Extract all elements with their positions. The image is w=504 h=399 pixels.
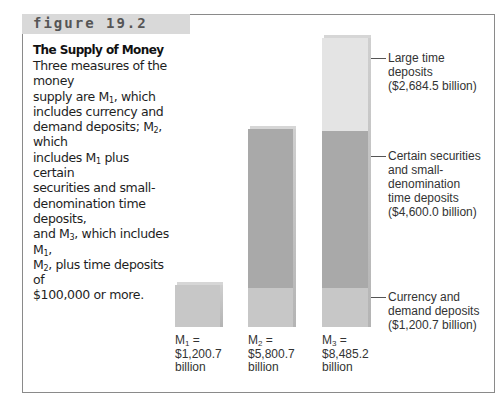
segment-currency-demand — [322, 288, 368, 327]
segment-securities-small-time — [322, 131, 368, 288]
leader-line-securities — [371, 156, 386, 157]
caption-line: includes M1 plus certain — [33, 150, 171, 181]
leader-line-large-time — [371, 58, 386, 59]
caption-line: Three measures of the money — [33, 58, 171, 89]
figure-caption: Three measures of the money supply are M… — [33, 58, 171, 303]
annotation-large-time: Large time deposits ($2,684.5 billion) — [388, 51, 477, 93]
caption-line: supply are M1, which — [33, 89, 171, 104]
figure-number: figure 19.2 — [33, 15, 148, 31]
annotation-currency: Currency and demand deposits ($1,200.7 b… — [388, 290, 479, 332]
segment-securities-small-time — [248, 129, 293, 288]
annotation-securities: Certain securities and small- denominati… — [388, 149, 481, 219]
leader-line-currency — [371, 297, 386, 298]
figure-title: The Supply of Money — [33, 43, 163, 57]
bar-m2 — [248, 129, 293, 327]
bar-m1 — [175, 285, 220, 327]
category-label-m1: M1 = $1,200.7 billion — [175, 334, 222, 375]
caption-line: securities and small- — [33, 180, 171, 195]
bar-m3 — [322, 38, 368, 327]
category-label-m2: M2 = $5,800.7 billion — [248, 334, 295, 375]
caption-line: $100,000 or more. — [33, 287, 171, 302]
category-label-m3: M3 = $8,485.2 billion — [322, 334, 369, 375]
caption-line: includes currency and — [33, 104, 171, 119]
caption-line: denomination time deposits, — [33, 196, 171, 227]
caption-line: demand deposits; M2, which — [33, 119, 171, 150]
segment-currency-demand — [248, 288, 293, 327]
segment-currency-demand — [175, 285, 220, 327]
caption-line: M2, plus time deposits of — [33, 257, 171, 288]
caption-line: and M3, which includes M1, — [33, 226, 171, 257]
segment-large-time — [322, 38, 368, 131]
